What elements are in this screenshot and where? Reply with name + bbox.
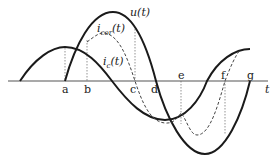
label-i-c: ic(t)	[103, 55, 123, 70]
label-i-cor: icor(t)	[97, 22, 125, 37]
point-label-e: e	[178, 69, 185, 82]
point-label-a: a	[62, 83, 69, 96]
waveform-diagram: u(t) icor(t) ic(t) a b c d e f g t	[0, 0, 274, 160]
point-label-c: c	[130, 83, 136, 96]
point-label-d: d	[151, 83, 158, 96]
point-label-b: b	[84, 83, 91, 96]
axis-label-t: t	[265, 83, 270, 96]
label-u: u(t)	[130, 6, 150, 19]
point-label-g: g	[247, 69, 254, 82]
